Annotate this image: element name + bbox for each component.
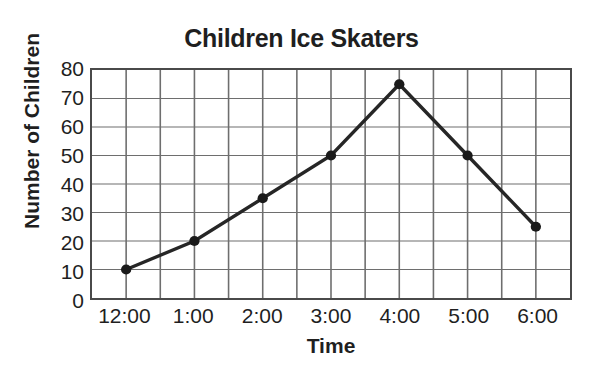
y-tick-label: 30 [40, 203, 84, 224]
y-tick-label: 60 [40, 116, 84, 137]
y-tick-label: 50 [40, 145, 84, 166]
data-series-line: 12:00: 101:00: 202:00: 353:00: 504:00: 7… [92, 70, 570, 298]
y-tick-label: 80 [40, 58, 84, 79]
chart-title: Children Ice Skaters [0, 24, 603, 53]
data-point-marker: 1:00: 20 [189, 236, 199, 246]
series-polyline [126, 84, 536, 269]
x-tick-label: 6:00 [483, 305, 593, 326]
data-point-marker: 3:00: 50 [326, 150, 336, 160]
y-axis-tick-labels: 80706050403020100 [40, 68, 84, 300]
x-axis-tick-labels: 12:001:002:003:004:005:006:00 [90, 305, 572, 333]
line-chart-figure: Children Ice Skaters Number of Children … [0, 0, 603, 374]
data-point-marker: 5:00: 50 [462, 150, 472, 160]
data-point-marker: 6:00: 25 [531, 222, 541, 232]
plot-area: 12:00: 101:00: 202:00: 353:00: 504:00: 7… [90, 68, 572, 300]
y-tick-label: 10 [40, 261, 84, 282]
data-point-marker: 2:00: 35 [258, 193, 268, 203]
y-tick-label: 20 [40, 232, 84, 253]
x-axis-label: Time [90, 334, 572, 358]
data-point-marker: 4:00: 75 [394, 79, 404, 89]
y-tick-label: 40 [40, 174, 84, 195]
data-point-marker: 12:00: 10 [121, 264, 131, 274]
y-tick-label: 70 [40, 87, 84, 108]
